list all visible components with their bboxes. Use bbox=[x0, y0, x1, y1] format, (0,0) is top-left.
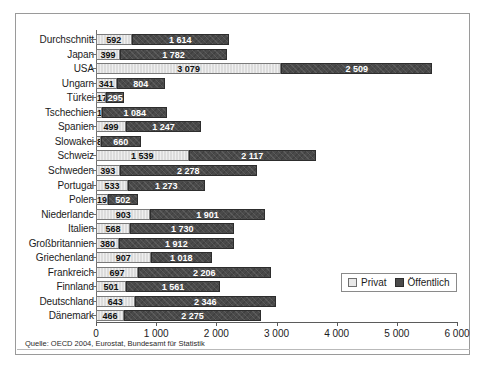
value-axis-tick-label: 1 000 bbox=[144, 328, 169, 339]
category-tick bbox=[91, 170, 96, 171]
bar-value-label: 3 079 bbox=[97, 64, 280, 74]
value-axis-tick bbox=[457, 322, 458, 326]
category-label: Spanien bbox=[16, 119, 94, 134]
bar-value-label: 2 509 bbox=[282, 64, 431, 74]
category-label: Griechenland bbox=[16, 250, 94, 265]
stacked-bar: 192502 bbox=[96, 194, 471, 205]
category-tick bbox=[91, 272, 96, 273]
bar-row: Ungarn341804 bbox=[16, 76, 471, 91]
bar-row: Niederlande9031 901 bbox=[16, 207, 471, 222]
bar-row: Durchschnitt5921 614 bbox=[16, 32, 471, 47]
value-axis-tick bbox=[397, 322, 398, 326]
category-tick bbox=[91, 68, 96, 69]
bar-value-label: 2 206 bbox=[139, 268, 270, 278]
category-tick bbox=[91, 214, 96, 215]
bar-value-label: 1 273 bbox=[129, 181, 204, 191]
stacked-bar: 4662 275 bbox=[96, 310, 471, 321]
bar-value-label: 102 bbox=[97, 108, 101, 118]
category-tick bbox=[91, 185, 96, 186]
value-axis-tick bbox=[216, 322, 217, 326]
legend-item: Öffentlich bbox=[395, 277, 450, 288]
bar-row: Japan3991 782 bbox=[16, 47, 471, 62]
stacked-bar: 6432 346 bbox=[96, 296, 471, 307]
stacked-bar: 5331 273 bbox=[96, 180, 471, 191]
bar-segment-privat: 592 bbox=[96, 34, 132, 45]
category-tick bbox=[91, 301, 96, 302]
bar-segment-privat: 697 bbox=[96, 267, 138, 278]
bar-segment-privat: 533 bbox=[96, 180, 128, 191]
bar-segment-privat: 903 bbox=[96, 209, 150, 220]
bar-segment-oeffentlich: 2 278 bbox=[120, 165, 257, 176]
bar-row: Schweiz1 5392 117 bbox=[16, 148, 471, 163]
category-label: Schweiz bbox=[16, 148, 94, 163]
value-axis-tick-label: 0 bbox=[93, 328, 99, 339]
legend-item: Privat bbox=[348, 277, 387, 288]
bar-value-label: 660 bbox=[102, 137, 140, 147]
bar-segment-privat: 501 bbox=[96, 281, 126, 292]
bar-row: Türkei174295 bbox=[16, 90, 471, 105]
value-axis-tick-label: 4 000 bbox=[324, 328, 349, 339]
category-label: Schweden bbox=[16, 163, 94, 178]
bar-segment-oeffentlich: 1 782 bbox=[120, 49, 227, 60]
category-label: Italien bbox=[16, 221, 94, 236]
value-axis-tick bbox=[277, 322, 278, 326]
bar-value-label: 907 bbox=[97, 253, 150, 263]
bar-row: Portugal5331 273 bbox=[16, 178, 471, 193]
category-tick bbox=[91, 243, 96, 244]
bar-value-label: 1 912 bbox=[120, 239, 233, 249]
category-label: Niederlande bbox=[16, 207, 94, 222]
bar-segment-privat: 174 bbox=[96, 92, 106, 103]
bar-value-label: 380 bbox=[97, 239, 118, 249]
bar-segment-oeffentlich: 1 018 bbox=[151, 252, 212, 263]
bar-segment-oeffentlich: 1 561 bbox=[126, 281, 220, 292]
stacked-bar: 9031 901 bbox=[96, 209, 471, 220]
category-tick bbox=[91, 286, 96, 287]
chart-plot-area: Durchschnitt5921 614Japan3991 782USA3 07… bbox=[16, 14, 471, 356]
bar-row: Italien5681 730 bbox=[16, 221, 471, 236]
bar-value-label: 501 bbox=[97, 282, 125, 292]
stacked-bar: 341804 bbox=[96, 78, 471, 89]
bar-segment-oeffentlich: 804 bbox=[117, 78, 165, 89]
value-axis-tick-label: 3 000 bbox=[264, 328, 289, 339]
chart-figure: Durchschnitt5921 614Japan3991 782USA3 07… bbox=[15, 13, 470, 355]
category-tick bbox=[91, 228, 96, 229]
stacked-bar: 1 5392 117 bbox=[96, 150, 471, 161]
bar-value-label: 393 bbox=[97, 166, 119, 176]
category-label: USA bbox=[16, 61, 94, 76]
bar-value-label: 643 bbox=[97, 297, 134, 307]
bar-segment-oeffentlich: 1 730 bbox=[130, 223, 234, 234]
bar-row: Deutschland6432 346 bbox=[16, 294, 471, 309]
legend-label: Privat bbox=[361, 277, 387, 288]
bar-row: USA3 0792 509 bbox=[16, 61, 471, 76]
bar-value-label: 697 bbox=[97, 268, 137, 278]
bar-segment-privat: 466 bbox=[96, 310, 124, 321]
bar-segment-privat: 3 079 bbox=[96, 63, 281, 74]
bar-value-label: 1 539 bbox=[97, 151, 188, 161]
stacked-bar: 5681 730 bbox=[96, 223, 471, 234]
category-label: Ungarn bbox=[16, 76, 94, 91]
stacked-bar: 5921 614 bbox=[96, 34, 471, 45]
value-axis-tick bbox=[337, 322, 338, 326]
value-axis-tick bbox=[156, 322, 157, 326]
bar-segment-oeffentlich: 502 bbox=[108, 194, 138, 205]
category-tick bbox=[91, 112, 96, 113]
bar-segment-privat: 499 bbox=[96, 121, 126, 132]
stacked-bar: 174295 bbox=[96, 92, 471, 103]
bar-value-label: 533 bbox=[97, 181, 127, 191]
source-note: Quelle: OECD 2004, Eurostat, Bundesamt f… bbox=[25, 339, 205, 348]
chart-legend: PrivatÖffentlich bbox=[341, 273, 457, 292]
stacked-bar: 9071 018 bbox=[96, 252, 471, 263]
legend-label: Öffentlich bbox=[408, 277, 450, 288]
bar-segment-oeffentlich: 1 084 bbox=[102, 107, 167, 118]
category-tick bbox=[91, 155, 96, 156]
category-tick bbox=[91, 141, 96, 142]
bar-value-label: 399 bbox=[97, 50, 119, 60]
value-axis-tick bbox=[96, 322, 97, 326]
bar-value-label: 592 bbox=[97, 35, 131, 45]
bar-segment-privat: 907 bbox=[96, 252, 151, 263]
stacked-bar: 81660 bbox=[96, 136, 471, 147]
category-label: Dänemark bbox=[16, 308, 94, 323]
bar-value-label: 502 bbox=[109, 195, 137, 205]
bar-value-label: 81 bbox=[97, 137, 100, 147]
stacked-bar: 1021 084 bbox=[96, 107, 471, 118]
